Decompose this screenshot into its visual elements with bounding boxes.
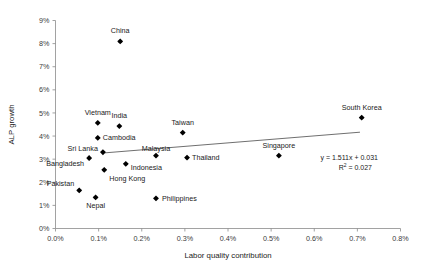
x-tick-label: 0.4% bbox=[220, 234, 237, 243]
point-label: Indonesia bbox=[131, 163, 162, 172]
y-tick-label: 0% bbox=[39, 224, 50, 233]
point-label: Taiwan bbox=[172, 118, 194, 127]
x-tick-label: 0.3% bbox=[177, 234, 194, 243]
point-label: South Korea bbox=[342, 103, 382, 112]
y-tick-label: 5% bbox=[39, 109, 50, 118]
point-label: Sri Lanka bbox=[68, 144, 98, 153]
x-tick-label: 0.6% bbox=[306, 234, 323, 243]
y-axis-title: ALP growth bbox=[7, 104, 16, 144]
y-tick-label: 8% bbox=[39, 39, 50, 48]
plot-background bbox=[0, 0, 428, 272]
point-label: Vietnam bbox=[85, 108, 111, 117]
x-tick-label: 0.2% bbox=[134, 234, 151, 243]
point-label: India bbox=[112, 111, 128, 120]
point-label: Singapore bbox=[262, 141, 295, 150]
point-label: Cambodia bbox=[103, 133, 136, 142]
x-tick-label: 0.7% bbox=[349, 234, 366, 243]
chart-canvas: 0%1%2%3%4%5%6%7%8%9% 0.0%0.1%0.2%0.3%0.4… bbox=[0, 0, 428, 272]
r-squared-value: R2 = 0.027 bbox=[339, 162, 372, 171]
scatter-chart: 0%1%2%3%4%5%6%7%8%9% 0.0%0.1%0.2%0.3%0.4… bbox=[0, 0, 428, 272]
y-tick-label: 6% bbox=[39, 85, 50, 94]
y-tick-label: 1% bbox=[39, 201, 50, 210]
point-label: China bbox=[111, 26, 130, 35]
y-tick-label: 7% bbox=[39, 62, 50, 71]
point-label: Bangladesh bbox=[46, 159, 84, 168]
regression-equation: y = 1.511x + 0.031 bbox=[321, 154, 379, 162]
point-label: Malaysia bbox=[142, 144, 170, 153]
x-tick-label: 0.1% bbox=[90, 234, 107, 243]
x-axis-title: Labor quality contribution bbox=[184, 251, 271, 260]
x-tick-label: 0.8% bbox=[392, 234, 409, 243]
point-label: Hong Kong bbox=[109, 174, 145, 183]
point-label: Pakistan bbox=[47, 179, 75, 188]
x-tick-label: 0.5% bbox=[263, 234, 280, 243]
point-label: Philippines bbox=[162, 194, 197, 203]
point-label: Nepal bbox=[86, 201, 105, 210]
x-tick-label: 0.0% bbox=[47, 234, 64, 243]
point-label: Thailand bbox=[192, 153, 220, 162]
y-tick-label: 4% bbox=[39, 132, 50, 141]
y-tick-label: 9% bbox=[39, 16, 50, 25]
